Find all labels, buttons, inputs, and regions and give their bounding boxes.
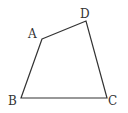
vertex-label-c: C xyxy=(108,94,117,108)
vertex-label-b: B xyxy=(8,94,17,108)
vertex-label-a: A xyxy=(27,27,37,41)
quadrilateral-diagram: A D C B xyxy=(0,0,128,113)
vertex-label-d: D xyxy=(80,7,90,21)
